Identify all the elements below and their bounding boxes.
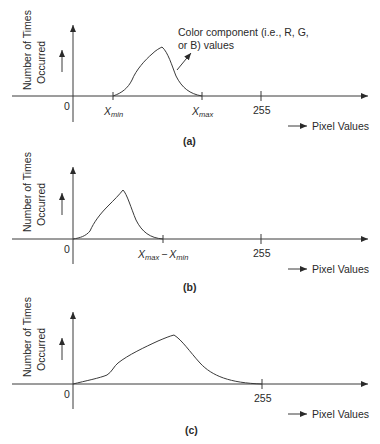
annotation-arrow-icon <box>177 53 191 70</box>
x-axis-label: Pixel Values <box>312 120 369 132</box>
panel-a: Number of Times Occurred 0 Xmin Xmax 255… <box>12 10 369 147</box>
annotation-line1: Color component (i.e., R, G, <box>178 26 309 38</box>
x-axis-label: Pixel Values <box>312 263 369 275</box>
caption-a: (a) <box>183 135 196 147</box>
xmax-minus-xmin-label: Xmax−Xmin <box>137 248 188 262</box>
origin-label: 0 <box>64 388 70 400</box>
origin-label: 0 <box>64 100 70 112</box>
xmax-label: Xmax <box>191 105 213 119</box>
y-axis-label-line1: Number of Times <box>21 297 33 377</box>
annotation-line2: or B) values <box>178 39 234 51</box>
histogram-curve <box>73 335 262 384</box>
y-axis-label-line2: Occurred <box>35 41 47 84</box>
histogram-curve <box>73 190 163 239</box>
caption-c: (c) <box>185 424 198 436</box>
panel-c: Number of Times Occurred 0 255 Pixel Val… <box>12 297 369 436</box>
max-value-label: 255 <box>253 247 271 259</box>
histogram-curve <box>113 47 202 96</box>
max-value-label: 255 <box>253 104 271 116</box>
caption-b: (b) <box>183 281 196 293</box>
y-axis-label-line1: Number of Times <box>21 152 33 232</box>
y-axis-label-line2: Occurred <box>35 183 47 226</box>
histogram-stretching-diagram: Number of Times Occurred 0 Xmin Xmax 255… <box>0 0 380 444</box>
y-axis-label-line2: Occurred <box>35 328 47 371</box>
max-value-label: 255 <box>254 392 272 404</box>
y-axis-label-line1: Number of Times <box>21 10 33 90</box>
x-axis-label: Pixel Values <box>312 408 369 420</box>
xmin-label: Xmin <box>103 105 123 119</box>
origin-label: 0 <box>64 243 70 255</box>
panel-b: Number of Times Occurred 0 Xmax−Xmin 255… <box>12 152 369 293</box>
